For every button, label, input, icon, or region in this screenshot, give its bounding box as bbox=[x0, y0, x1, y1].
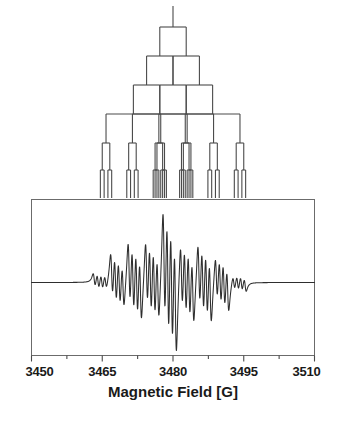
x-axis-title: Magnetic Field [G] bbox=[108, 383, 238, 400]
epr-spectrum-figure: 34503465348034953510 Magnetic Field [G] bbox=[0, 0, 344, 421]
x-axis-tick-labels: 34503465348034953510 bbox=[25, 364, 320, 379]
x-axis-tick-label: 3480 bbox=[159, 364, 187, 379]
x-axis-tick-label: 3450 bbox=[25, 364, 53, 379]
figure-svg: 34503465348034953510 Magnetic Field [G] bbox=[0, 0, 344, 421]
x-axis-tick-label: 3495 bbox=[230, 364, 258, 379]
hyperfine-splitting-tree bbox=[100, 6, 245, 198]
x-axis-tick-label: 3465 bbox=[88, 364, 116, 379]
x-axis-tick-label: 3510 bbox=[292, 364, 320, 379]
x-axis-ticks bbox=[32, 356, 315, 362]
